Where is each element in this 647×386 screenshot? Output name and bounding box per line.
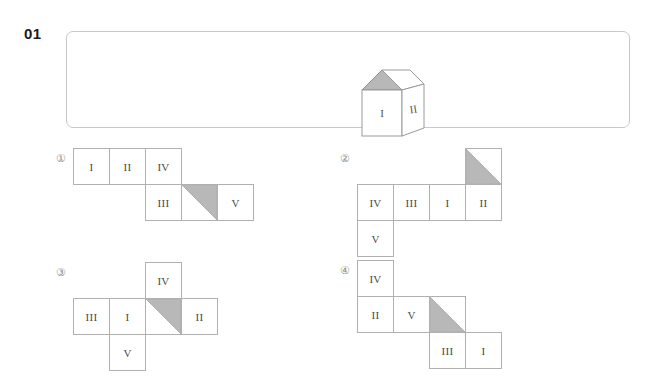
option-2-cell-v: V xyxy=(357,220,394,257)
option-3-cell-v: V xyxy=(109,334,146,371)
cell-label: IV xyxy=(157,275,169,287)
cell-label: V xyxy=(231,197,239,209)
cell-label: IV xyxy=(369,273,381,285)
option-3-marker: ③ xyxy=(56,267,66,278)
option-4-cell-i: I xyxy=(465,332,502,369)
option-1-cell-v: V xyxy=(217,184,254,221)
cell-label: IV xyxy=(157,161,169,173)
option-3-cell-shaded-triangle xyxy=(145,298,182,335)
shaded-triangle xyxy=(466,149,501,184)
question-number: 01 xyxy=(24,25,42,42)
option-4-cell-iv: IV xyxy=(357,260,394,297)
cube-3d-figure: I II xyxy=(360,68,426,140)
cell-label: III xyxy=(86,311,98,323)
shaded-triangle xyxy=(146,299,181,334)
option-4-cell-shaded-triangle xyxy=(429,296,466,333)
option-3-cell-ii: II xyxy=(181,298,218,335)
stimulus-box: I II xyxy=(66,31,630,128)
option-1-cell-ii: II xyxy=(109,148,146,185)
option-4-cell-ii: II xyxy=(357,296,394,333)
option-1-cell-shaded-triangle xyxy=(181,184,218,221)
cell-label: II xyxy=(480,197,488,209)
option-1[interactable]: ① IIIIVIIIV xyxy=(56,148,276,238)
option-3-cell-iii: III xyxy=(73,298,110,335)
cell-label: III xyxy=(158,197,170,209)
option-2-marker: ② xyxy=(340,153,350,164)
option-1-cell-iii: III xyxy=(145,184,182,221)
option-1-cell-i: I xyxy=(73,148,110,185)
cell-label: III xyxy=(442,345,454,357)
cell-label: IV xyxy=(369,197,381,209)
cell-label: II xyxy=(124,161,132,173)
option-4-cell-iii: III xyxy=(429,332,466,369)
cell-label: V xyxy=(407,309,415,321)
option-4-marker: ④ xyxy=(340,265,350,276)
option-2-cell-i: I xyxy=(429,184,466,221)
cell-label: I xyxy=(446,197,450,209)
option-2-cell-shaded-triangle xyxy=(465,148,502,185)
option-3-cell-iv: IV xyxy=(145,262,182,299)
cell-label: I xyxy=(482,345,486,357)
option-2-cell-iv: IV xyxy=(357,184,394,221)
option-4-cell-v: V xyxy=(393,296,430,333)
option-2[interactable]: ② IVIIIIIIV xyxy=(340,148,570,253)
cell-label: I xyxy=(126,311,130,323)
cell-label: V xyxy=(371,233,379,245)
option-2-cell-iii: III xyxy=(393,184,430,221)
shaded-triangle xyxy=(182,185,217,220)
option-3-cell-i: I xyxy=(109,298,146,335)
option-3[interactable]: ③ IVIIIIIIV xyxy=(56,262,276,374)
cell-label: I xyxy=(90,161,94,173)
shaded-triangle xyxy=(430,297,465,332)
option-1-cell-iv: IV xyxy=(145,148,182,185)
option-4[interactable]: ④ IVIIVIIII xyxy=(340,260,570,375)
option-1-marker: ① xyxy=(56,153,66,164)
option-2-cell-ii: II xyxy=(465,184,502,221)
cell-label: V xyxy=(123,347,131,359)
cell-label: II xyxy=(372,309,380,321)
cell-label: III xyxy=(406,197,418,209)
cell-label: II xyxy=(196,311,204,323)
cube-front-face-label: I xyxy=(380,107,384,119)
